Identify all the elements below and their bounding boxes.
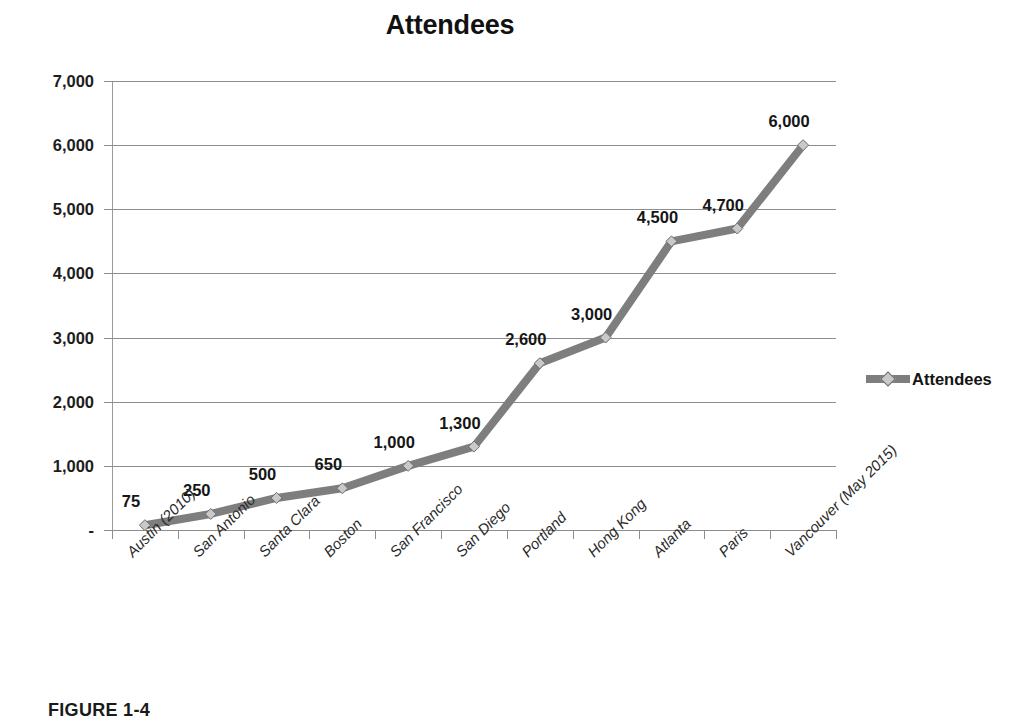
data-point-label: 6,000 (768, 112, 809, 131)
figure-container: Attendees -1,0002,0003,0004,0005,0006,00… (0, 0, 1035, 726)
data-point-label: 1,000 (374, 433, 415, 452)
data-point-label: 3,000 (571, 305, 612, 324)
x-axis-tick (507, 530, 508, 539)
data-point-label: 4,500 (637, 208, 678, 227)
y-axis-tick (104, 145, 113, 146)
y-axis-tick-label: 1,000 (24, 456, 94, 475)
grid-line (112, 81, 836, 82)
y-axis-tick (104, 273, 113, 274)
plot-area (112, 81, 836, 530)
legend-item-attendees: Attendees (912, 370, 992, 389)
y-axis-tick-label: 4,000 (24, 264, 94, 283)
grid-line (112, 145, 836, 146)
chart-legend[interactable]: Attendees (866, 368, 992, 390)
y-axis-tick (104, 466, 113, 467)
y-axis-tick (104, 530, 113, 531)
y-axis-tick (104, 209, 113, 210)
legend-line-swatch-icon (866, 375, 910, 383)
y-axis-tick-label: 6,000 (24, 136, 94, 155)
x-axis-tick (836, 530, 837, 539)
x-axis-tick (178, 530, 179, 539)
x-axis-tick (770, 530, 771, 539)
y-axis-tick-label: 3,000 (24, 328, 94, 347)
x-axis-tick (441, 530, 442, 539)
x-axis-tick (639, 530, 640, 539)
y-axis-tick-label: - (24, 521, 94, 540)
grid-line (112, 273, 836, 274)
y-axis-tick (104, 402, 113, 403)
y-axis-tick-label: 5,000 (24, 200, 94, 219)
legend-diamond-marker-icon (880, 371, 896, 387)
chart-title: Attendees (0, 10, 900, 41)
x-axis-tick (309, 530, 310, 539)
grid-line (112, 466, 836, 467)
data-point-label: 75 (122, 492, 140, 511)
x-axis-tick (573, 530, 574, 539)
y-axis-tick (104, 81, 113, 82)
grid-line (112, 402, 836, 403)
x-axis-tick (375, 530, 376, 539)
grid-line (112, 338, 836, 339)
data-point-label: 1,300 (439, 414, 480, 433)
x-axis-tick (112, 530, 113, 539)
data-point-label: 650 (315, 455, 343, 474)
data-point-label: 2,600 (505, 330, 546, 349)
figure-caption: FIGURE 1-4 (48, 700, 150, 721)
y-axis-tick-label: 7,000 (24, 72, 94, 91)
x-axis-tick (244, 530, 245, 539)
data-point-label: 4,700 (703, 196, 744, 215)
y-axis-tick-label: 2,000 (24, 392, 94, 411)
y-axis-labels: -1,0002,0003,0004,0005,0006,0007,000 (20, 81, 94, 531)
data-point-label: 500 (249, 465, 277, 484)
y-axis-tick (104, 338, 113, 339)
x-axis-tick (704, 530, 705, 539)
